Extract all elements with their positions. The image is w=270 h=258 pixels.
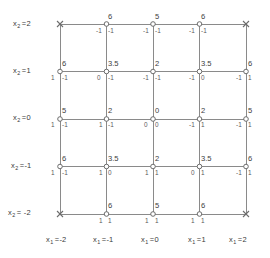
edge-value: 1 (51, 170, 55, 176)
grid-mesh (0, 0, 270, 258)
node-marker (104, 212, 109, 217)
edge-value: 1 (99, 122, 103, 128)
edge-value: -1 (201, 28, 207, 34)
edge-value: 0 (191, 170, 195, 176)
node-value: 5 (155, 13, 159, 21)
axis-label-x1-0: x1=0 (141, 236, 159, 245)
edge-value: 1 (108, 218, 112, 224)
edge-value: -1 (143, 28, 149, 34)
axis-label-x2-2: x2=2 (13, 20, 31, 29)
node-value: 3.5 (108, 60, 119, 68)
edge-value: -1 (236, 170, 242, 176)
edge-value: -1 (62, 122, 68, 128)
edge-value: 0 (144, 122, 148, 128)
edge-value: -1 (62, 170, 68, 176)
node-value: 6 (62, 60, 66, 68)
edge-value: 0 (201, 75, 205, 81)
node-value: 2 (108, 107, 112, 115)
edge-value: 0 (108, 170, 112, 176)
node-marker (104, 22, 109, 27)
edge-value: 1 (191, 218, 195, 224)
edge-value: -1 (189, 122, 195, 128)
edge-value: 1 (201, 218, 205, 224)
axis-label-x2-minus2: x2= -2 (8, 209, 31, 218)
axis-label-x1-minus2: x1=-2 (46, 236, 67, 245)
node-value: 3.5 (108, 155, 119, 163)
node-value: 5 (248, 107, 252, 115)
edge-value: -1 (236, 122, 242, 128)
node-value: 5 (62, 107, 66, 115)
node-value: 2 (155, 60, 159, 68)
edge-value: 1 (248, 75, 252, 81)
axis-label-x1-minus1: x1=-1 (93, 236, 114, 245)
node-value: 3.5 (201, 60, 212, 68)
edge-value: 1 (145, 218, 149, 224)
edge-value: 1 (155, 170, 159, 176)
edge-value: -1 (189, 28, 195, 34)
node-value: 6 (108, 202, 112, 210)
axis-label-x1-1: x1=1 (188, 236, 206, 245)
edge-value: -1 (236, 75, 242, 81)
edge-value: 1 (51, 122, 55, 128)
node-marker (151, 212, 156, 217)
node-value: 0 (155, 107, 159, 115)
edge-value: -1 (96, 28, 102, 34)
edge-value: -1 (108, 28, 114, 34)
edge-value: -1 (189, 75, 195, 81)
edge-value: 1 (145, 170, 149, 176)
diagram-canvas: x2=2 x2=1 x2=0 x2=-1 x2= -2 x1=-2 x1=-1 … (0, 0, 270, 258)
edge-value: 1 (99, 170, 103, 176)
edge-value: 1 (51, 75, 55, 81)
axis-label-x2-0: x2=0 (13, 114, 31, 123)
node-value: 6 (248, 155, 252, 163)
node-marker (151, 22, 156, 27)
node-value: 6 (62, 155, 66, 163)
edge-value: -1 (108, 122, 114, 128)
edge-value: 1 (248, 122, 252, 128)
edge-value: 1 (99, 218, 103, 224)
node-value: 2 (155, 155, 159, 163)
edge-value: -1 (62, 75, 68, 81)
axis-label-x1-2: x1=2 (229, 236, 247, 245)
edge-value: 1 (248, 170, 252, 176)
edge-value: -1 (143, 75, 149, 81)
edge-value: 1 (155, 218, 159, 224)
node-marker (197, 212, 202, 217)
edge-value: -1 (155, 28, 161, 34)
edge-value: 0 (97, 75, 101, 81)
edge-value: 1 (201, 122, 205, 128)
node-value: 6 (248, 60, 252, 68)
edge-value: 0 (155, 122, 159, 128)
axis-label-x2-1: x2=1 (13, 67, 31, 76)
node-value: 3.5 (201, 155, 212, 163)
node-value: 6 (108, 13, 112, 21)
axis-label-x2-minus1: x2=-1 (11, 162, 32, 171)
edge-value: 1 (201, 170, 205, 176)
edge-value: -1 (108, 75, 114, 81)
node-value: 6 (201, 13, 205, 21)
node-value: 5 (155, 202, 159, 210)
edge-value: -1 (155, 75, 161, 81)
node-value: 2 (201, 107, 205, 115)
node-marker (197, 22, 202, 27)
node-value: 6 (201, 202, 205, 210)
